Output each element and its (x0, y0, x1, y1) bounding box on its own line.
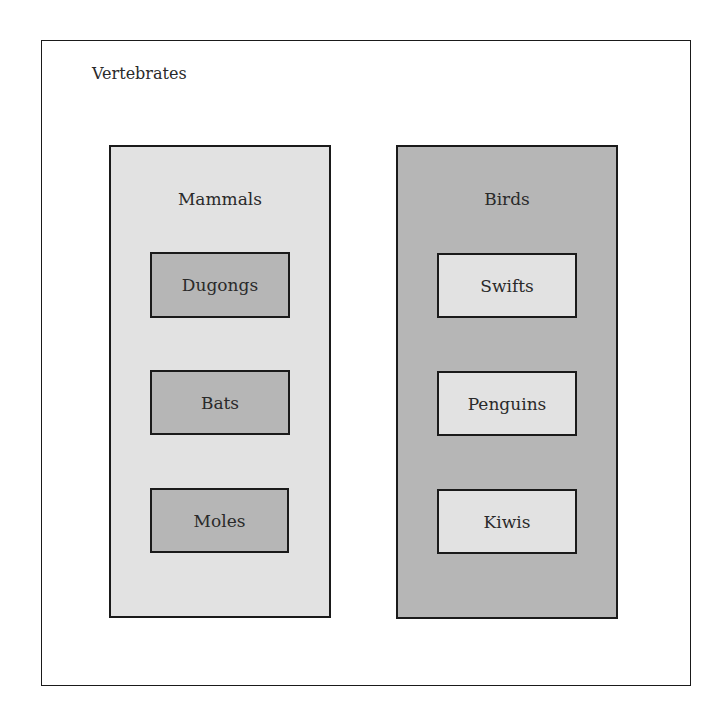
vertebrates-title: Vertebrates (92, 64, 187, 83)
penguins-node: Penguins (437, 371, 577, 436)
moles-node: Moles (150, 488, 289, 553)
kiwis-node: Kiwis (437, 489, 577, 554)
mammals-label: Mammals (111, 189, 329, 209)
bats-node: Bats (150, 370, 290, 435)
birds-label: Birds (398, 189, 616, 209)
dugongs-node: Dugongs (150, 252, 290, 318)
swifts-node: Swifts (437, 253, 577, 318)
